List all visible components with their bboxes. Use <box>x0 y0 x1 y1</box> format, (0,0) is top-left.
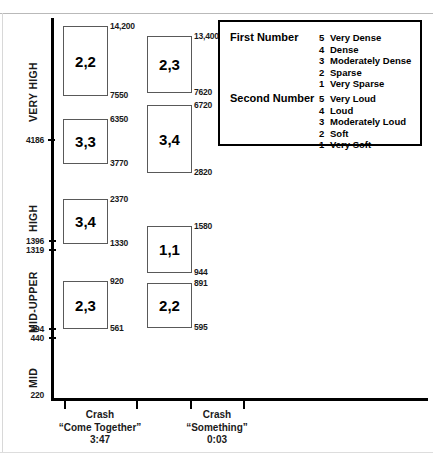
x-category-2-line3: 0:03 <box>165 434 269 447</box>
legend-box: First Number 5Very Dense 4Dense 3Moderat… <box>218 20 422 146</box>
y-tick-label-220: 220 <box>12 390 44 400</box>
x-axis-line <box>51 398 428 401</box>
legend-first-item-2-text: Moderately Dense <box>330 55 411 66</box>
x-category-2-line2: “Something” <box>165 422 269 435</box>
data-box-c2-2-high: 6720 <box>194 100 212 110</box>
legend-second-item-4: 1Very Soft <box>319 139 406 151</box>
legend-first-item-0-num: 5 <box>319 32 330 44</box>
data-box-c1-4-low: 561 <box>110 323 124 333</box>
legend-second-item-1: 4Loud <box>319 105 406 117</box>
legend-first-item-4-text: Very Sparse <box>330 78 384 89</box>
legend-second-item-2-num: 3 <box>319 116 330 128</box>
y-category-high: HIGH <box>27 205 39 232</box>
legend-second-item-1-text: Loud <box>330 105 353 116</box>
x-tick-mark-1 <box>64 401 66 409</box>
x-category-1-line1: Crash <box>48 409 152 422</box>
figure-left-border <box>2 13 3 453</box>
legend-first-item-3: 2Sparse <box>319 67 411 79</box>
x-category-label-2: Crash “Something” 0:03 <box>165 409 269 447</box>
figure-top-border <box>0 13 433 14</box>
data-box-c1-3-high: 2370 <box>110 194 128 204</box>
legend-first-item-0: 5Very Dense <box>319 32 411 44</box>
y-category-mid: MID <box>27 368 39 388</box>
legend-first-item-1-text: Dense <box>330 44 359 55</box>
legend-first-item-3-text: Sparse <box>330 67 362 78</box>
data-box-c1-1-label: 2,2 <box>75 53 96 70</box>
data-box-c2-4: 2,2 <box>147 283 192 328</box>
data-box-c2-2-label: 3,4 <box>159 131 180 148</box>
legend-first-item-4: 1Very Sparse <box>319 78 411 90</box>
legend-first-item-1: 4Dense <box>319 44 411 56</box>
legend-second-item-3-num: 2 <box>319 128 330 140</box>
legend-first-item-4-num: 1 <box>319 78 330 90</box>
data-box-c2-4-high: 891 <box>194 278 208 288</box>
legend-second-item-2-text: Moderately Loud <box>330 116 406 127</box>
x-category-1-line3: 3:47 <box>48 434 152 447</box>
data-box-c1-2-low: 3770 <box>110 158 128 168</box>
data-box-c2-3-label: 1,1 <box>159 241 180 258</box>
data-box-c1-1-low: 7550 <box>110 90 128 100</box>
data-box-c1-1: 2,2 <box>63 26 108 96</box>
legend-second-item-0-text: Very Loud <box>330 93 376 104</box>
y-tick-label-1319: 1319 <box>12 245 44 255</box>
y-tick-mark-4186 <box>48 139 55 141</box>
chart-figure: 4186 1396 1319 494 440 220 VERY HIGH HIG… <box>0 0 433 455</box>
legend-second-item-0: 5Very Loud <box>319 93 406 105</box>
x-category-label-1: Crash “Come Together” 3:47 <box>48 409 152 447</box>
legend-second-item-1-num: 4 <box>319 105 330 117</box>
data-box-c2-2-low: 2820 <box>194 167 212 177</box>
data-box-c1-4: 2,3 <box>63 281 108 329</box>
data-box-c2-1: 2,3 <box>147 36 192 93</box>
data-box-c1-3-label: 3,4 <box>75 213 96 230</box>
y-tick-label-440: 440 <box>12 333 44 343</box>
data-box-c2-4-low: 595 <box>194 322 208 332</box>
figure-bottom-border <box>0 452 433 453</box>
data-box-c1-3-low: 1330 <box>110 238 128 248</box>
data-box-c2-3-low: 944 <box>194 267 208 277</box>
data-box-c1-4-label: 2,3 <box>75 297 96 314</box>
y-category-mid-upper: MID-UPPER <box>27 271 39 333</box>
data-box-c1-2: 3,3 <box>63 119 108 164</box>
y-tick-mark-440 <box>49 337 56 339</box>
y-tick-mark-1319 <box>49 249 56 251</box>
data-box-c1-2-label: 3,3 <box>75 133 96 150</box>
data-box-c2-3-high: 1580 <box>194 221 212 231</box>
legend-first-item-3-num: 2 <box>319 67 330 79</box>
x-category-1-line2: “Come Together” <box>48 422 152 435</box>
legend-first-item-1-num: 4 <box>319 44 330 56</box>
x-tick-mark-2 <box>136 401 138 409</box>
legend-first-item-2-num: 3 <box>319 55 330 67</box>
legend-second-item-3-text: Soft <box>330 128 348 139</box>
legend-second-number-title: Second Number <box>230 92 314 104</box>
legend-first-number-items: 5Very Dense 4Dense 3Moderately Dense 2Sp… <box>319 32 411 90</box>
x-category-2-line1: Crash <box>165 409 269 422</box>
data-box-c1-1-high: 14,200 <box>110 21 135 31</box>
x-tick-mark-4 <box>243 401 245 409</box>
y-tick-label-4186: 4186 <box>12 135 44 145</box>
data-box-c1-4-high: 920 <box>110 276 124 286</box>
y-axis-line <box>51 18 54 401</box>
data-box-c2-4-label: 2,2 <box>159 297 180 314</box>
data-box-c2-2: 3,4 <box>147 105 192 173</box>
x-tick-mark-3 <box>190 401 192 409</box>
legend-second-number-items: 5Very Loud 4Loud 3Moderately Loud 2Soft … <box>319 93 406 151</box>
legend-second-item-4-num: 1 <box>319 139 330 151</box>
data-box-c2-1-label: 2,3 <box>159 56 180 73</box>
legend-second-item-0-num: 5 <box>319 93 330 105</box>
data-box-c2-3: 1,1 <box>147 226 192 273</box>
data-box-c1-3: 3,4 <box>63 199 108 244</box>
legend-second-item-2: 3Moderately Loud <box>319 116 406 128</box>
legend-first-item-0-text: Very Dense <box>330 32 381 43</box>
y-tick-mark-494 <box>49 328 56 330</box>
legend-first-number-title: First Number <box>230 31 298 43</box>
y-tick-mark-1396 <box>49 240 56 242</box>
data-box-c2-1-high: 13,400 <box>194 31 219 41</box>
data-box-c2-1-low: 7620 <box>194 87 212 97</box>
data-box-c1-2-high: 6350 <box>110 114 128 124</box>
legend-second-item-3: 2Soft <box>319 128 406 140</box>
legend-second-item-4-text: Very Soft <box>330 139 371 150</box>
y-category-very-high: VERY HIGH <box>27 62 39 122</box>
legend-first-item-2: 3Moderately Dense <box>319 55 411 67</box>
